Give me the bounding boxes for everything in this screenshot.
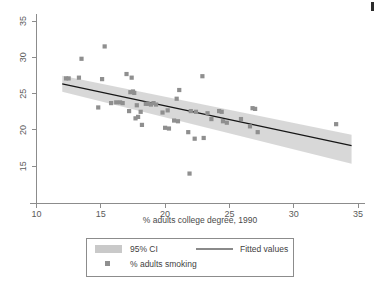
scatter-point [121, 101, 125, 105]
scatter-point [79, 57, 83, 61]
y-tick-label: 30 [18, 52, 28, 62]
legend-scatter-marker [105, 261, 110, 266]
scatter-point [154, 102, 158, 106]
legend-ci-label: 95% CI [130, 244, 158, 254]
scatter-point [239, 117, 243, 121]
y-axis-ticks: 1520253035 [18, 16, 36, 171]
scatter-point [176, 119, 180, 123]
corner-mark-icon [371, 2, 374, 11]
scatter-point [172, 118, 176, 122]
legend-ci-swatch [95, 245, 122, 253]
scatter-point [220, 110, 224, 114]
legend-scatter-label: % adults smoking [130, 259, 197, 269]
scatter-point [163, 126, 167, 130]
scatter-point [124, 72, 128, 76]
scatter-point [109, 101, 113, 105]
scatter-point [160, 110, 164, 114]
scatter-point [127, 109, 131, 113]
scatter-point [103, 44, 107, 48]
scatter-point [186, 130, 190, 134]
scatter-point [205, 111, 209, 115]
scatter-point [177, 88, 181, 92]
legend: 95% CI Fitted values % adults smoking [87, 239, 294, 277]
scatter-point [209, 117, 213, 121]
scatter-point [194, 110, 198, 114]
scatter-point [140, 123, 144, 127]
scatter-point [253, 107, 257, 111]
legend-fitted-label: Fitted values [240, 244, 288, 254]
x-tick-label: 30 [289, 209, 299, 219]
scatter-point [130, 76, 134, 80]
scatter-point [221, 119, 225, 123]
scatter-point [135, 103, 139, 107]
scatter-point [67, 76, 71, 80]
scatter-point [167, 126, 171, 130]
scatter-point [256, 130, 260, 134]
scatter-plot-figure: 1520253035 101520253035 % adults college… [0, 0, 378, 288]
scatter-point [334, 122, 338, 126]
x-tick-label: 10 [31, 209, 41, 219]
scatter-point [193, 137, 197, 141]
x-tick-label: 15 [96, 209, 106, 219]
x-axis-title: % adults college degree, 1990 [143, 215, 258, 225]
y-tick-label: 15 [18, 161, 28, 171]
y-tick-label: 20 [18, 125, 28, 135]
scatter-point [77, 76, 81, 80]
scatter-point [175, 97, 179, 101]
scatter-point [225, 121, 229, 125]
scatter-point [248, 124, 252, 128]
scatter-point [114, 100, 118, 104]
scatter-point [202, 136, 206, 140]
y-tick-label: 35 [18, 16, 28, 26]
scatter-point [189, 109, 193, 113]
x-tick-label: 35 [353, 209, 363, 219]
scatter-point [100, 77, 104, 81]
scatter-point [200, 74, 204, 78]
scatter-point [132, 91, 136, 95]
scatter-point [139, 110, 143, 114]
plot-canvas: 1520253035 101520253035 % adults college… [0, 0, 378, 288]
scatter-point [96, 105, 100, 109]
scatter-point [136, 115, 140, 119]
y-tick-label: 25 [18, 89, 28, 99]
scatter-point [187, 171, 191, 175]
scatter-point [166, 108, 170, 112]
confidence-interval-band [62, 76, 351, 164]
